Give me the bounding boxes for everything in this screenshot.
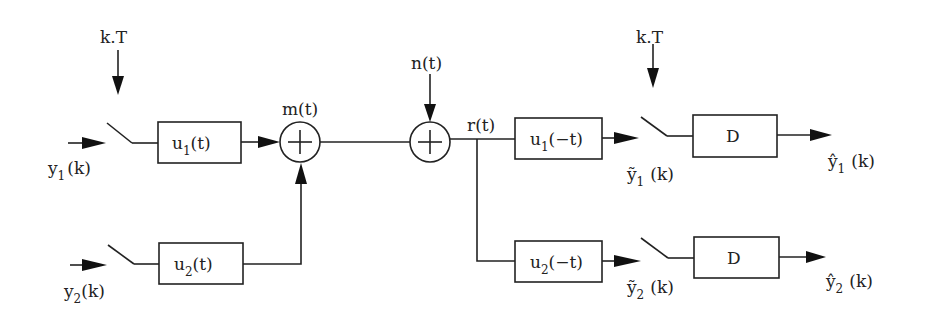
input-y1-arrow-icon — [82, 137, 106, 149]
rx-clock-arrow-icon — [647, 68, 659, 88]
rx-sampling-label: k.T — [636, 27, 664, 47]
output-y2-arrow-icon — [806, 251, 826, 263]
tx-sampling-label: k.T — [100, 27, 128, 47]
output-y1-hat-label: ŷ1(k) — [827, 151, 875, 176]
block-d1-label: D — [726, 126, 740, 146]
input-y2: y2(k) — [63, 259, 107, 306]
summer-n: n(t) — [410, 53, 450, 162]
block-u2-neg-t: u2(−t) — [515, 241, 602, 282]
block-d1: D — [693, 115, 777, 157]
u2-to-summer-arrow-icon — [295, 163, 307, 184]
input-y1: y1(k) — [47, 137, 106, 183]
input-y1-label: y1(k) — [47, 158, 91, 183]
sample-y1-tilde-label: ỹ1(k) — [626, 164, 674, 189]
output-y2-hat-label: ŷ2(k) — [825, 271, 873, 296]
sample-y2-tilde-label: ỹ2(k) — [626, 277, 674, 302]
noise-arrow-icon — [424, 104, 436, 122]
input-y2-arrow-icon — [82, 259, 107, 271]
block-u1-neg-t: u1(−t) — [515, 118, 602, 159]
output-y1-arrow-icon — [810, 129, 832, 141]
u2-neg-t-arrow-icon — [614, 255, 641, 267]
rx-switch-2 — [641, 238, 694, 258]
block-d2-label: D — [727, 248, 741, 268]
summer-m: m(t) — [280, 99, 320, 162]
u1-neg-t-arrow-icon — [614, 132, 639, 144]
tx-sampling-clock: k.T — [100, 27, 128, 95]
signal-r-label: r(t) — [467, 115, 495, 135]
r-branch-line — [477, 139, 515, 261]
rx-sampling-clock: k.T — [636, 27, 664, 88]
rx-switch-1 — [641, 117, 693, 136]
input-y2-label: y2(k) — [63, 281, 105, 306]
signal-m-label: m(t) — [282, 99, 318, 119]
u2-to-summer-line — [243, 180, 301, 264]
tx-switch-2 — [108, 245, 159, 264]
u1-to-summer-arrow-icon — [258, 136, 280, 148]
block-u2-t: u2(t) — [159, 243, 243, 284]
signal-n-label: n(t) — [411, 53, 442, 73]
block-diagram: k.T y1(k) u1(t) y2(k) u2(t) — [0, 0, 926, 318]
block-d2: D — [694, 237, 779, 278]
tx-clock-arrow-icon — [112, 76, 124, 95]
tx-switch-1 — [107, 123, 158, 143]
block-u1-t: u1(t) — [158, 122, 241, 163]
